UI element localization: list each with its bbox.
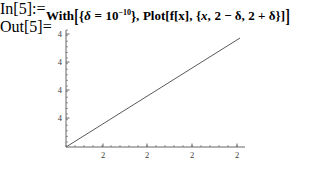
token-brace-open: { xyxy=(79,5,84,25)
token-plot-bracket-close: ] xyxy=(281,8,285,23)
token-upper-bound: 2 + δ xyxy=(248,8,275,23)
plot-line xyxy=(66,38,240,147)
token-equals: = xyxy=(94,8,101,23)
y-tick-label: 4 xyxy=(58,113,63,123)
token-bracket-open: [ xyxy=(74,3,78,28)
token-base: 10 xyxy=(105,8,118,23)
token-brace-close: } xyxy=(131,5,136,25)
token-exponent: −10 xyxy=(118,8,131,17)
token-function: f[x] xyxy=(170,8,190,23)
token-lower-bound: 2 − δ xyxy=(214,8,241,23)
y-tick-label: 4 xyxy=(58,85,63,95)
y-tick-label: 4 xyxy=(58,29,63,39)
token-delta-symbol: δ xyxy=(84,8,91,23)
input-expression[interactable]: With[{δ = 10−10}, Plot[f[x], {x, 2 − δ, … xyxy=(46,7,290,24)
plot-svg: 4444 2222 xyxy=(58,26,258,166)
x-tick-label: 2 xyxy=(235,150,239,160)
x-axis: 2222 xyxy=(66,144,245,161)
y-axis: 4444 xyxy=(58,29,70,147)
x-tick-label: 2 xyxy=(145,150,149,160)
y-tick-label: 4 xyxy=(58,57,63,67)
plot-series xyxy=(66,38,240,147)
x-tick-label: 2 xyxy=(190,150,194,160)
token-head: With xyxy=(46,8,74,23)
token-bracket-close: ] xyxy=(285,3,289,28)
mathematica-notebook: In[5]:= With[{δ = 10−10}, Plot[f[x], {x,… xyxy=(0,0,312,173)
token-plot-head: Plot xyxy=(143,8,165,23)
x-tick-label: 2 xyxy=(101,150,105,160)
plot-graphic[interactable]: 4444 2222 xyxy=(58,26,258,166)
